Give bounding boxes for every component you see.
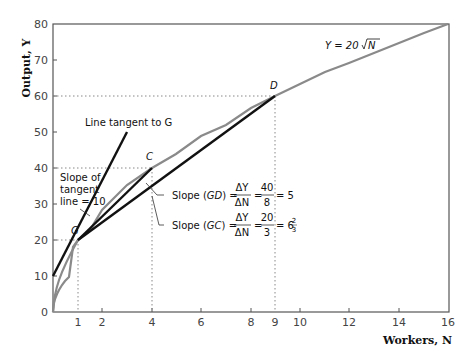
y-tick-50: 50 — [34, 126, 48, 139]
svg-text:ΔN: ΔN — [235, 197, 249, 208]
x-tick-10: 10 — [293, 316, 307, 329]
slope-gd-annotation: Slope (GD) = ΔY ΔN = 40 8 = 5 — [172, 182, 294, 208]
x-axis: 1 2 4 6 8 9 10 12 14 16 Workers, N — [75, 308, 456, 347]
point-g-label: G — [71, 225, 79, 236]
svg-text:N: N — [368, 40, 376, 51]
svg-text:ΔN: ΔN — [235, 227, 249, 238]
svg-text:Y = 20: Y = 20 — [325, 40, 359, 51]
svg-text:20: 20 — [261, 212, 274, 223]
x-tick-14: 14 — [392, 316, 406, 329]
production-curve — [53, 24, 448, 312]
svg-text:3: 3 — [292, 226, 296, 234]
y-tick-80: 80 — [34, 18, 48, 31]
x-tick-16: 16 — [441, 316, 455, 329]
slope-gc-annotation: Slope (GC) = ΔY ΔN = 20 3 = 6 2 3 — [172, 212, 297, 238]
y-tick-10: 10 — [34, 270, 48, 283]
y-tick-20: 20 — [34, 234, 48, 247]
svg-text:Slope of: Slope of — [60, 172, 101, 183]
svg-text:= 5: = 5 — [276, 190, 294, 201]
y-tick-30: 30 — [34, 198, 48, 211]
chart: 0 10 20 30 40 50 60 70 80 Output, Y 1 2 … — [0, 0, 476, 358]
svg-text:40: 40 — [261, 182, 274, 193]
slope-tangent-annotation: Slope of tangent line = 10 — [60, 172, 106, 216]
svg-text:Slope (GD) =: Slope (GD) = — [172, 190, 238, 201]
svg-text:3: 3 — [264, 227, 270, 238]
x-tick-2: 2 — [99, 316, 106, 329]
point-d-label: D — [270, 80, 278, 91]
x-tick-8: 8 — [248, 316, 255, 329]
y-tick-0: 0 — [41, 306, 48, 319]
curve-label: Y = 20 N — [325, 39, 380, 51]
x-tick-1: 1 — [75, 316, 82, 329]
x-tick-4: 4 — [149, 316, 156, 329]
svg-text:8: 8 — [264, 197, 270, 208]
y-tick-60: 60 — [34, 90, 48, 103]
svg-text:ΔY: ΔY — [236, 182, 250, 193]
y-tick-70: 70 — [34, 54, 48, 67]
x-axis-label: Workers, N — [382, 334, 452, 347]
x-tick-9: 9 — [272, 316, 279, 329]
y-axis: 0 10 20 30 40 50 60 70 80 Output, Y — [20, 18, 57, 319]
tangent-label: Line tangent to G — [85, 117, 172, 128]
svg-text:tangent: tangent — [60, 184, 99, 195]
y-tick-40: 40 — [34, 162, 48, 175]
plot-frame — [53, 24, 449, 312]
svg-text:line = 10: line = 10 — [60, 196, 106, 207]
svg-text:ΔY: ΔY — [236, 212, 250, 223]
point-c-label: C — [146, 151, 153, 162]
y-axis-label: Output, Y — [20, 38, 33, 97]
x-tick-6: 6 — [198, 316, 205, 329]
svg-text:Slope (GC) =: Slope (GC) = — [172, 220, 237, 231]
svg-text:2: 2 — [292, 217, 296, 225]
x-tick-12: 12 — [342, 316, 356, 329]
